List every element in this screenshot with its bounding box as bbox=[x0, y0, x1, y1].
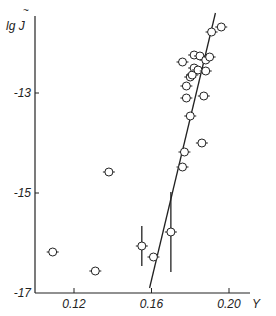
open-circle-marker bbox=[167, 228, 175, 236]
open-circle-marker bbox=[149, 253, 157, 261]
open-circle-marker bbox=[200, 92, 208, 100]
open-circle-marker bbox=[182, 82, 190, 90]
open-circle-marker bbox=[186, 112, 194, 120]
data-points bbox=[47, 23, 228, 275]
open-circle-marker bbox=[198, 139, 206, 147]
y-axis-label: lg J bbox=[6, 19, 26, 33]
open-circle-marker bbox=[180, 148, 188, 156]
open-circle-marker bbox=[217, 23, 225, 31]
data-point bbox=[196, 139, 208, 147]
data-point bbox=[103, 168, 115, 176]
open-circle-marker bbox=[182, 94, 190, 102]
y-tick-label: -15 bbox=[14, 186, 32, 200]
open-circle-marker bbox=[179, 163, 187, 171]
data-point bbox=[165, 192, 177, 272]
data-point bbox=[47, 248, 59, 256]
x-axis-label: Y bbox=[252, 297, 261, 311]
x-tick-label: 0.16 bbox=[140, 297, 164, 311]
axis-labels: 0.120.160.20-13-15-17Ylg J~ bbox=[6, 5, 261, 311]
data-point bbox=[180, 82, 192, 90]
open-circle-marker bbox=[194, 66, 202, 74]
data-point bbox=[177, 58, 189, 66]
tilde-mark: ~ bbox=[23, 5, 29, 16]
open-circle-marker bbox=[49, 248, 57, 256]
data-point bbox=[178, 148, 190, 156]
open-circle-marker bbox=[179, 58, 187, 66]
open-circle-marker bbox=[105, 168, 113, 176]
scatter-chart: 0.120.160.20-13-15-17Ylg J~ bbox=[0, 0, 276, 316]
ticks bbox=[35, 93, 229, 293]
open-circle-marker bbox=[202, 67, 210, 75]
y-tick-label: -17 bbox=[14, 286, 33, 300]
data-point bbox=[198, 92, 210, 100]
axes bbox=[35, 16, 250, 293]
data-point bbox=[206, 28, 218, 36]
data-point bbox=[180, 94, 192, 102]
open-circle-marker bbox=[206, 53, 214, 61]
data-point bbox=[89, 267, 101, 275]
open-circle-marker bbox=[91, 267, 99, 275]
open-circle-marker bbox=[208, 28, 216, 36]
x-tick-label: 0.20 bbox=[217, 297, 241, 311]
x-tick-label: 0.12 bbox=[62, 297, 86, 311]
open-circle-marker bbox=[138, 242, 146, 250]
data-point bbox=[184, 112, 196, 120]
data-point bbox=[136, 226, 148, 266]
data-point bbox=[215, 23, 227, 31]
y-tick-label: -13 bbox=[14, 86, 32, 100]
